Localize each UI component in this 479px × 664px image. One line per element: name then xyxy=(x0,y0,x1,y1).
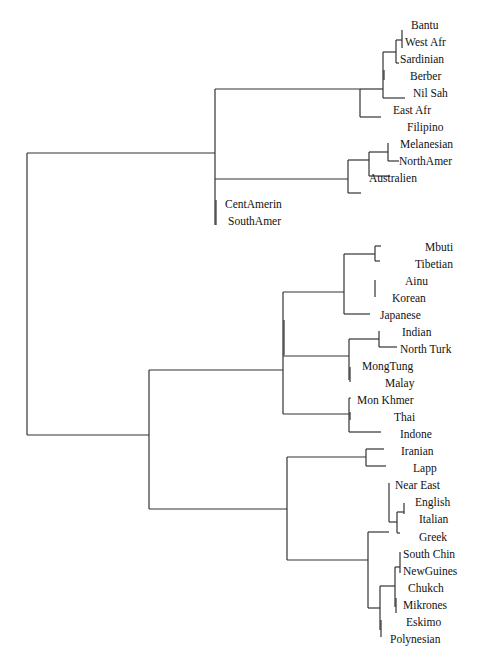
leaf-label: Bantu xyxy=(411,19,439,31)
leaf-label: MongTung xyxy=(362,360,414,373)
leaf-label: SouthAmer xyxy=(228,215,281,227)
leaf-label: Italian xyxy=(419,513,449,525)
leaf-label: Mikrones xyxy=(403,599,448,611)
leaf-label: Near East xyxy=(395,479,441,491)
leaf-label: Chukch xyxy=(408,582,444,594)
leaf-label: West Afr xyxy=(405,36,446,48)
leaf-label: Tibetian xyxy=(415,258,453,270)
leaf-label: Mbuti xyxy=(425,241,453,253)
leaf-label: Malay xyxy=(385,377,415,390)
leaf-label: Thai xyxy=(394,411,415,423)
leaf-label: Korean xyxy=(392,292,426,304)
leaf-label: Ainu xyxy=(405,275,428,287)
leaf-label: Polynesian xyxy=(390,633,441,646)
leaf-label: NorthAmer xyxy=(399,155,452,167)
leaf-label: NewGuines xyxy=(403,565,458,577)
leaf-label: Lapp xyxy=(413,462,437,475)
leaf-label: South Chin xyxy=(403,548,455,560)
leaf-label: Mon Khmer xyxy=(357,394,414,406)
leaf-label: CentAmerin xyxy=(225,198,282,210)
leaf-label: Berber xyxy=(410,70,441,82)
leaf-label: Sardinian xyxy=(400,53,444,65)
leaf-label: Japanese xyxy=(380,309,421,322)
leaf-label: East Afr xyxy=(393,104,431,116)
leaf-label: English xyxy=(415,496,450,509)
leaf-labels: BantuWest AfrSardinianBerberNil SahEast … xyxy=(225,19,458,646)
leaf-label: Greek xyxy=(419,531,447,543)
leaf-label: Australien xyxy=(369,172,417,184)
leaf-label: Melanesian xyxy=(400,138,453,150)
leaf-label: Filipino xyxy=(407,121,444,134)
leaf-label: Indone xyxy=(400,428,432,440)
tree-branches xyxy=(27,30,405,637)
leaf-label: Nil Sah xyxy=(413,87,448,99)
dendrogram: BantuWest AfrSardinianBerberNil SahEast … xyxy=(0,0,479,664)
leaf-label: Indian xyxy=(402,326,432,338)
leaf-label: Eskimo xyxy=(406,616,441,628)
leaf-label: Iranian xyxy=(401,445,434,457)
leaf-label: North Turk xyxy=(400,343,452,355)
